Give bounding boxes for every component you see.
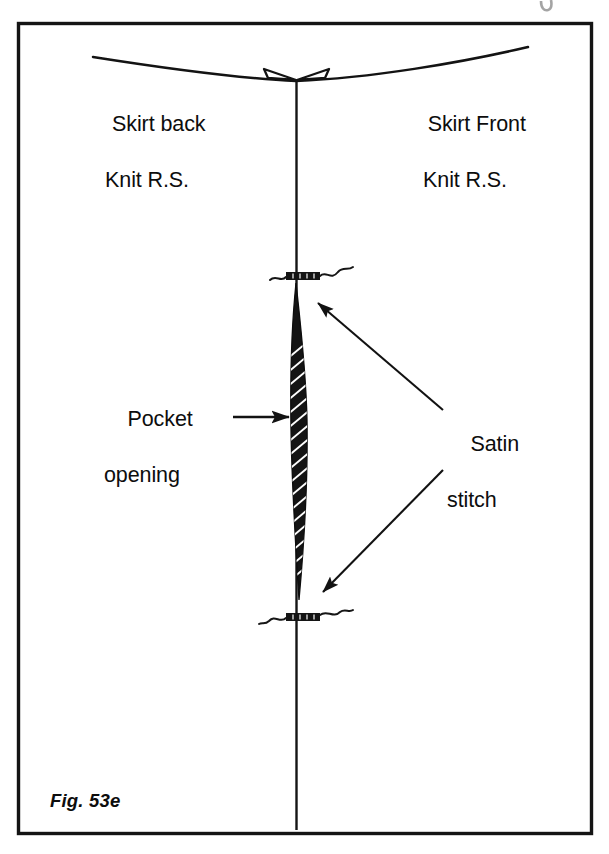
scan-artifact-glyph bbox=[541, 0, 551, 10]
satin-stitch-arrow-bottom bbox=[323, 470, 443, 592]
pocket-label-line1: Pocket bbox=[128, 407, 193, 431]
pocket-label-line2: opening bbox=[104, 462, 254, 490]
pocket-opening-label: Pocket opening bbox=[104, 378, 254, 546]
satin-stitch-bartack-bottom bbox=[259, 610, 353, 624]
skirt-front-line1: Skirt Front bbox=[428, 112, 526, 136]
pocket-opening-shape bbox=[286, 283, 312, 600]
skirt-front-label: Skirt Front Knit R.S. bbox=[375, 83, 555, 251]
seam-flap-left-icon bbox=[264, 69, 296, 80]
skirt-back-label: Skirt back Knit R.S. bbox=[57, 83, 237, 251]
skirt-front-line2: Knit R.S. bbox=[375, 167, 555, 195]
satin-label-line1: Satin bbox=[471, 432, 520, 456]
satin-stitch-label: Satin stitch bbox=[447, 403, 587, 571]
skirt-back-line1: Skirt back bbox=[112, 112, 205, 136]
skirt-back-line2: Knit R.S. bbox=[57, 167, 237, 195]
satin-stitch-bartack-top bbox=[270, 267, 353, 280]
satin-label-line2: stitch bbox=[447, 487, 587, 515]
seam-flap-right-icon bbox=[297, 69, 329, 80]
satin-stitch-arrow-top bbox=[318, 303, 443, 410]
figure-caption: Fig. 53e bbox=[50, 789, 210, 813]
figure-page: Skirt back Knit R.S. Skirt Front Knit R.… bbox=[0, 0, 609, 854]
